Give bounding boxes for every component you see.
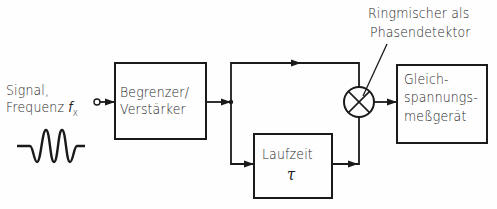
- wire-delay-to-mixer: [332, 117, 359, 164]
- meter-label-line3: meßgerät: [404, 108, 466, 125]
- limiter-label-line2b: Verstärker: [120, 101, 186, 118]
- mixer-annotation-line1: Ringmischer als: [368, 5, 469, 22]
- input-terminal: [94, 99, 100, 105]
- limiter-label-line1: Begrenzer/: [120, 84, 189, 101]
- meter-label-line2: spannungs-: [404, 89, 478, 106]
- input-label-line2: Frequenz fx: [6, 99, 78, 121]
- block-diagram: Signal, Frequenz fx Begrenzer/ Laufzeit …: [0, 0, 497, 209]
- delay-tau-symbol: τ: [287, 166, 295, 183]
- sine-burst-icon: [17, 130, 85, 162]
- input-label-line1: Signal,: [6, 82, 49, 99]
- meter-label-line1: Gleich-: [404, 71, 449, 88]
- annotation-leader: [363, 44, 387, 96]
- freq-subscript: x: [73, 107, 78, 118]
- input-label-frequency: Frequenz: [6, 99, 64, 115]
- wire-upper-path: [231, 63, 359, 102]
- mixer-annotation-line2: Phasendetektor: [370, 24, 471, 41]
- wire-lower-path: [231, 102, 253, 164]
- delay-label-line1: Laufzeit: [262, 146, 313, 163]
